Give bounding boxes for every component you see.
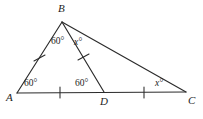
vertex-label-D: D <box>99 95 108 107</box>
geometry-canvas: A B D C 60° 60° x° 60° x° <box>0 0 203 119</box>
angle-label-ABD: 60° <box>51 36 65 46</box>
angle-label-C: x° <box>154 78 163 88</box>
vertex-label-C: C <box>188 94 196 106</box>
vertex-label-A: A <box>5 91 13 103</box>
angle-labels: 60° 60° x° 60° x° <box>24 36 163 88</box>
angle-label-BDA: 60° <box>75 78 89 88</box>
tick-AB <box>34 55 45 61</box>
vertex-label-B: B <box>58 2 65 14</box>
vertex-labels: A B D C <box>5 2 196 107</box>
congruence-ticks <box>34 54 144 98</box>
tick-BD <box>78 54 89 60</box>
angle-label-A: 60° <box>24 78 38 88</box>
segment-AC-base <box>17 92 186 93</box>
angle-label-DBC: x° <box>73 37 82 47</box>
geometry-figure: A B D C 60° 60° x° 60° x° <box>0 0 203 119</box>
